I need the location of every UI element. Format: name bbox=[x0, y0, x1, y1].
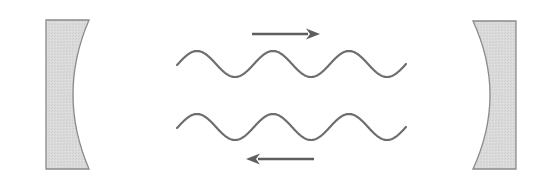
forward-arrow-icon bbox=[252, 29, 320, 40]
backward-wave bbox=[177, 114, 406, 140]
forward-wave bbox=[177, 51, 406, 77]
arrow-head bbox=[306, 29, 320, 40]
left-mirror bbox=[46, 20, 89, 169]
right-mirror bbox=[473, 21, 516, 169]
optical-cavity-diagram bbox=[0, 0, 539, 186]
backward-arrow-icon bbox=[246, 154, 314, 165]
arrow-head bbox=[246, 154, 260, 165]
